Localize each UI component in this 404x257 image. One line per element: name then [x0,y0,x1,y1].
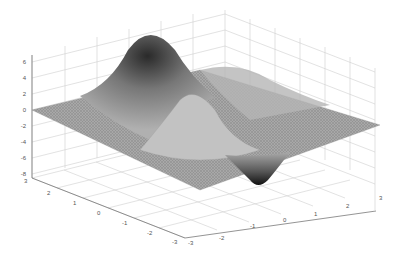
svg-text:2: 2 [47,190,51,196]
svg-text:2: 2 [346,203,350,209]
svg-text:-2: -2 [21,123,27,129]
svg-text:-6: -6 [21,155,27,161]
y-axis-ticks: 3 2 1 0 -1 -2 -3 [24,178,178,245]
svg-text:-4: -4 [21,139,27,145]
svg-text:6: 6 [23,59,27,65]
z-axis-ticks: 6 4 2 0 -2 -4 -6 -8 [21,59,27,177]
svg-text:1: 1 [73,200,77,206]
svg-text:-1: -1 [250,223,256,229]
svg-text:4: 4 [23,75,27,81]
svg-text:-3: -3 [172,239,178,245]
svg-text:3: 3 [379,195,383,201]
x-axis-ticks: -3 -2 -1 0 1 2 3 [188,195,383,246]
peaks-surface [32,35,380,190]
surface-plot: 6 4 2 0 -2 -4 -6 -8 3 2 1 0 -1 -2 -3 -3 … [0,0,404,257]
svg-text:-8: -8 [21,171,27,177]
svg-text:0: 0 [283,217,287,223]
svg-text:-2: -2 [147,230,153,236]
svg-text:0: 0 [23,107,27,113]
svg-text:-2: -2 [219,235,225,241]
svg-text:-3: -3 [188,240,194,246]
svg-text:-1: -1 [122,220,128,226]
svg-text:1: 1 [314,211,318,217]
svg-text:2: 2 [23,91,27,97]
svg-text:0: 0 [97,210,101,216]
svg-text:3: 3 [24,178,28,184]
